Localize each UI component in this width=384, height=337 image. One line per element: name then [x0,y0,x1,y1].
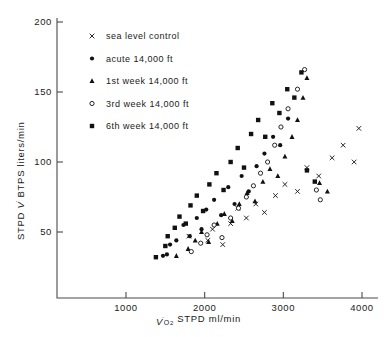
x-tick-label: 4000 [350,302,374,313]
x-tick-label: 1000 [114,302,138,313]
data-point [201,209,205,213]
data-point [212,223,216,227]
data-point [195,193,199,197]
data-point [228,160,232,164]
legend-label: acute 14,000 ft [106,54,173,64]
x-tick-label: 3000 [272,302,296,313]
y-tick-label: 100 [34,156,52,167]
data-point [188,203,192,207]
y-axis-title: STPD V̇ BTPS liters/min [14,121,26,240]
data-point [240,174,244,178]
legend-marker-filled-square-icon [90,124,94,128]
data-point [279,125,283,129]
data-point [174,238,178,242]
data-point [184,221,188,225]
data-point [199,241,203,245]
legend-marker-open-circle-icon [90,101,94,105]
data-point [195,216,199,220]
data-point [314,188,318,192]
data-point [256,118,260,122]
data-point [286,117,290,121]
data-point [205,233,209,237]
data-point [168,243,172,247]
data-point [188,234,192,238]
data-point [254,164,258,168]
x-tick-label: 2000 [193,302,217,313]
data-point [236,146,240,150]
data-point [299,70,303,74]
scatter-plot-figure: 50100150200 1000200030004000 sea level c… [0,0,384,337]
data-point [214,171,218,175]
data-point [273,143,277,147]
data-point [305,168,309,172]
y-axis-title-text: STPD V̇ BTPS liters/min [14,121,26,240]
data-point [221,188,225,192]
data-point [161,254,165,258]
data-point [232,202,236,206]
legend-label: 6th week 14,000 ft [106,121,189,131]
data-point [285,87,289,91]
data-point [242,165,246,169]
data-point [262,152,266,156]
data-point [163,244,167,248]
data-point [249,132,253,136]
data-point [207,182,211,186]
data-point [226,185,230,189]
data-point [271,135,275,139]
legend-label: 1st week 14,000 ft [106,76,188,86]
data-point [278,143,282,147]
data-point [251,184,255,188]
data-point [220,236,224,240]
y-tick-label: 150 [34,86,52,97]
legend-label: 3rd week 14,000 ft [106,99,189,109]
data-point [177,214,181,218]
data-point [263,135,267,139]
data-point [258,171,262,175]
data-point [313,179,317,183]
data-point [236,206,240,210]
data-point [270,101,274,105]
data-point [229,216,233,220]
data-point [212,198,216,202]
data-point [244,195,248,199]
y-tick-label: 200 [34,16,52,27]
data-point [292,95,296,99]
data-point [266,160,270,164]
y-tick-label: 50 [40,226,52,237]
data-point [277,111,281,115]
data-point [318,198,322,202]
data-point [286,107,290,111]
data-point [165,234,169,238]
data-point [154,255,158,259]
plot-background [0,0,384,337]
legend-label: sea level control [106,31,180,41]
data-point [173,226,177,230]
data-point [189,250,193,254]
data-point [165,252,169,256]
legend-marker-filled-circle-icon [90,56,94,60]
data-point [295,87,299,91]
